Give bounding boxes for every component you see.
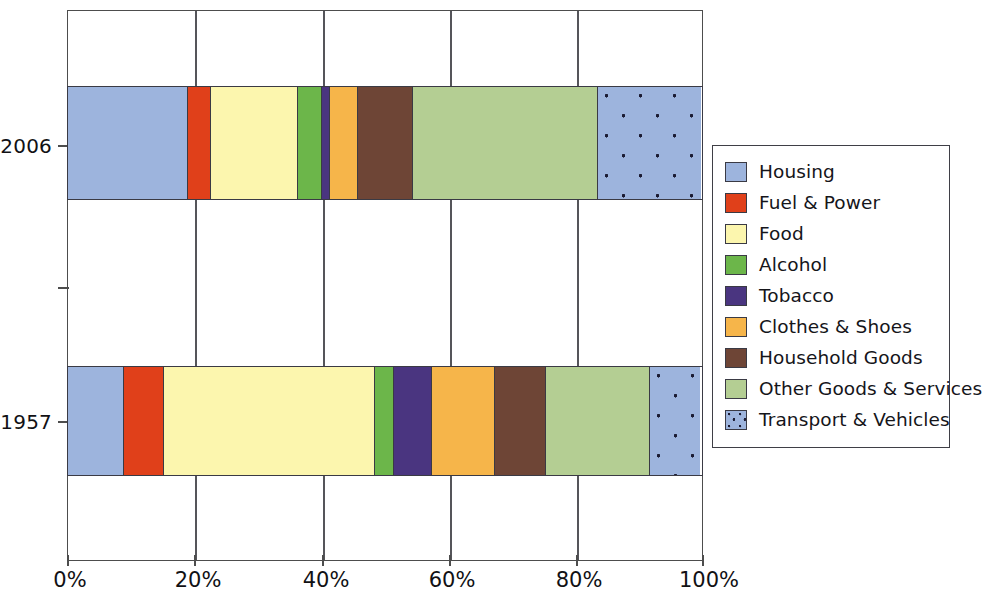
legend-item-food[interactable]: Food — [725, 218, 939, 249]
bar-segment-food — [164, 367, 374, 475]
x-tick-mark — [702, 555, 704, 566]
x-axis-label-100: 100% — [679, 568, 739, 592]
x-tick-mark — [322, 555, 324, 566]
legend-swatch-icon — [725, 317, 747, 337]
bar-segment-food — [211, 87, 298, 199]
legend-item-clothes-and-shoes[interactable]: Clothes & Shoes — [725, 311, 939, 342]
legend-swatch-icon — [725, 348, 747, 368]
legend-swatch-icon — [725, 162, 747, 182]
legend-item-transport-and-vehicles[interactable]: Transport & Vehicles — [725, 404, 939, 435]
legend-item-label: Food — [759, 223, 804, 244]
bar-segment-tobacco — [322, 87, 330, 199]
bar-segment-fuel-power — [188, 87, 210, 199]
bar-segment-alcohol — [375, 367, 394, 475]
bar-segment-household-goods — [358, 87, 413, 199]
legend-item-label: Tobacco — [759, 285, 834, 306]
legend-item-label: Housing — [759, 161, 835, 182]
legend-item-label: Alcohol — [759, 254, 827, 275]
x-tick-mark — [194, 555, 196, 566]
legend-item-alcohol[interactable]: Alcohol — [725, 249, 939, 280]
x-tick-mark — [449, 555, 451, 566]
legend-item-household-goods[interactable]: Household Goods — [725, 342, 939, 373]
y-tick-mark-middle — [58, 287, 69, 289]
bar-segment-alcohol — [298, 87, 322, 199]
legend-swatch-icon — [725, 224, 747, 244]
y-axis-label-1957: 1957 — [0, 410, 52, 434]
bar-segment-transport-vehicles — [598, 87, 701, 199]
bar-segment-housing — [68, 367, 124, 475]
bar-2006 — [67, 86, 703, 200]
x-tick-mark — [67, 555, 69, 566]
bar-segment-clothes-shoes — [432, 367, 495, 475]
legend-swatch-icon — [725, 410, 747, 430]
x-axis-label-0: 0% — [53, 568, 86, 592]
x-axis-label-20: 20% — [175, 568, 222, 592]
y-axis-label-2006: 2006 — [0, 134, 52, 158]
legend-item-label: Other Goods & Services — [759, 378, 982, 399]
legend-item-label: Fuel & Power — [759, 192, 880, 213]
legend-item-label: Transport & Vehicles — [759, 409, 950, 430]
legend: Housing Fuel & Power Food Alcohol Tobacc… — [712, 145, 950, 448]
bar-segment-household-goods — [495, 367, 546, 475]
legend-item-housing[interactable]: Housing — [725, 156, 939, 187]
x-axis-label-80: 80% — [556, 568, 603, 592]
bar-1957 — [67, 366, 703, 476]
x-axis-label-40: 40% — [303, 568, 350, 592]
bar-segment-housing — [68, 87, 188, 199]
bar-segment-clothes-shoes — [330, 87, 358, 199]
legend-swatch-icon — [725, 193, 747, 213]
bar-segment-other-goods-services — [413, 87, 598, 199]
legend-item-fuel-and-power[interactable]: Fuel & Power — [725, 187, 939, 218]
legend-item-other-goods-and-services[interactable]: Other Goods & Services — [725, 373, 939, 404]
legend-item-label: Clothes & Shoes — [759, 316, 912, 337]
legend-swatch-icon — [725, 255, 747, 275]
bar-segment-tobacco — [394, 367, 432, 475]
bar-segment-other-goods-services — [546, 367, 650, 475]
x-axis-label-60: 60% — [429, 568, 476, 592]
legend-item-label: Household Goods — [759, 347, 923, 368]
legend-swatch-icon — [725, 286, 747, 306]
legend-item-tobacco[interactable]: Tobacco — [725, 280, 939, 311]
bar-segment-transport-vehicles — [650, 367, 700, 475]
legend-swatch-icon — [725, 379, 747, 399]
bar-segment-fuel-power — [124, 367, 165, 475]
x-tick-mark — [576, 555, 578, 566]
